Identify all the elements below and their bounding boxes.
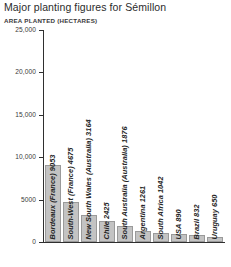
y-axis-tick-mark	[39, 115, 43, 116]
chart-axis-caption: AREA PLANTED (HECTARES)	[4, 17, 97, 24]
bar-label: Chile 2425	[103, 202, 110, 239]
bar-label: South Africa 1042	[157, 176, 164, 239]
bar-label: New South Wales (Australia) 3164	[85, 119, 92, 239]
bar-label: South-West (France) 4675	[67, 147, 74, 239]
bar-label: Bordeaux (France) 9053	[49, 154, 56, 239]
y-axis-tick-mark	[39, 242, 43, 243]
y-axis-tick-label: 25,000	[2, 26, 36, 33]
y-axis-tick-label: 20,000	[2, 68, 36, 75]
y-axis-tick-mark	[39, 200, 43, 201]
bar-label: Brazil 832	[193, 204, 200, 239]
plot-area: Bordeaux (France) 9053South-West (France…	[44, 30, 224, 242]
y-axis-tick-mark	[39, 157, 43, 158]
y-axis-tick-label: 5000	[2, 196, 36, 203]
bar-label: Argentina 1261	[139, 185, 146, 239]
y-axis-tick-label: 10,000	[2, 153, 36, 160]
bar-chart: Major planting figures for Sémillon AREA…	[0, 0, 231, 267]
x-axis-baseline	[43, 242, 225, 243]
bar-label: USA 890	[175, 209, 182, 239]
y-axis-tick-mark	[39, 72, 43, 73]
y-axis-tick-mark	[39, 30, 43, 31]
bar-label: Uruguay 650	[211, 194, 218, 239]
bar-label: South Australia (Australia) 1876	[121, 126, 128, 239]
chart-title: Major planting figures for Sémillon	[4, 1, 166, 13]
y-axis-tick-label: 15,000	[2, 111, 36, 118]
y-axis-tick-label: 0	[2, 238, 36, 245]
